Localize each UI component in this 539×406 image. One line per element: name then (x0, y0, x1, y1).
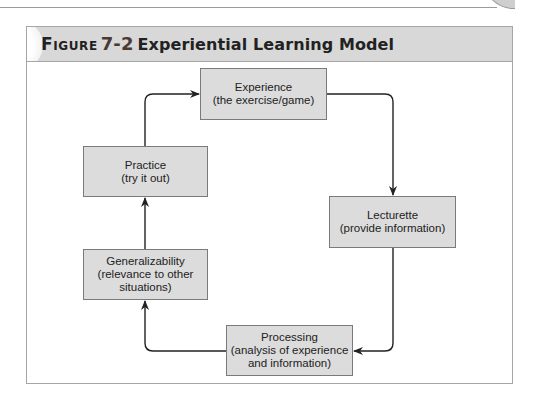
node-processing-title: Processing (261, 331, 318, 344)
node-lecturette: Lecturette (provide information) (329, 196, 456, 248)
arrow-lecturette-to-processing (354, 248, 393, 351)
node-processing-subtitle-2: and information) (248, 357, 331, 370)
node-experience: Experience (the exercise/game) (200, 68, 327, 120)
node-practice-subtitle: (try it out) (121, 172, 170, 185)
arrow-experience-to-lecturette (327, 94, 393, 195)
arrow-processing-to-generalizability (145, 301, 226, 351)
node-processing-subtitle-1: (analysis of experience (231, 344, 349, 357)
node-processing: Processing (analysis of experience and i… (226, 325, 353, 376)
node-generalizability-title: Generalizability (106, 255, 185, 268)
node-generalizability: Generalizability (relevance to other sit… (83, 249, 208, 300)
node-generalizability-subtitle-2: situations) (119, 281, 171, 294)
node-experience-subtitle: (the exercise/game) (213, 94, 315, 107)
node-generalizability-subtitle-1: (relevance to other (98, 268, 194, 281)
node-practice-title: Practice (125, 159, 167, 172)
node-practice: Practice (try it out) (83, 146, 208, 197)
node-lecturette-subtitle: (provide information) (340, 222, 445, 235)
node-experience-title: Experience (235, 81, 293, 94)
node-lecturette-title: Lecturette (367, 209, 418, 222)
arrow-practice-to-experience (145, 94, 199, 146)
